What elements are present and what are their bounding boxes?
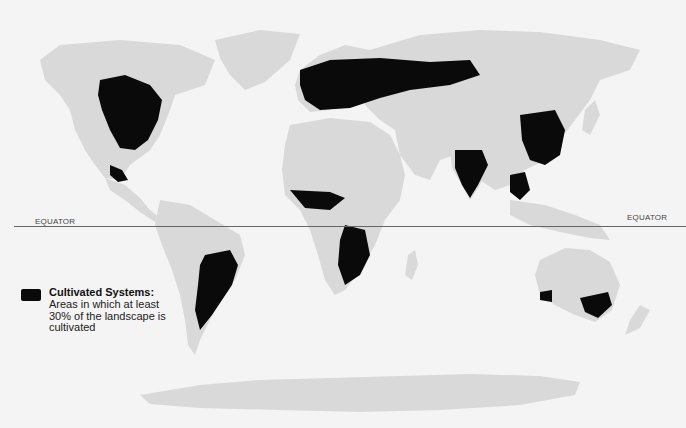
world-map: EQUATOR EQUATOR Cultivated Systems: Area… xyxy=(0,0,686,428)
legend-swatch-cultivated xyxy=(21,289,41,301)
equator-line xyxy=(14,226,686,227)
equator-label-right: EQUATOR xyxy=(627,213,667,222)
legend-description: Areas in which at least 30% of the lands… xyxy=(49,299,179,334)
legend-title: Cultivated Systems: xyxy=(49,286,154,298)
world-map-graphic xyxy=(0,0,686,428)
equator-label-left: EQUATOR xyxy=(35,217,75,226)
